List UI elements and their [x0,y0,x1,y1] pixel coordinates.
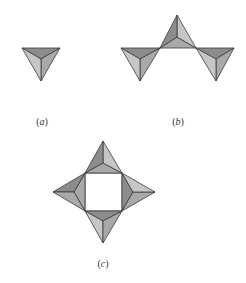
tetrahedron [160,15,196,48]
tetrahedron [85,211,122,243]
panel-c-ring-tetrahedra [53,141,155,243]
central-square-void [85,173,122,211]
tetrahedron [85,141,122,173]
tetrahedron [196,48,234,81]
panel-b-label: (b) [172,116,184,128]
tetrahedron [121,48,160,81]
tetrahedron [122,173,155,211]
panel-b-chain-tetrahedra [121,15,234,81]
tetrahedron [22,48,60,81]
panel-a-label: (a) [36,116,48,128]
tetrahedron [53,173,85,211]
figure-canvas: (a) (b) (c) [0,0,246,283]
panel-c-label: (c) [97,258,108,270]
panel-a-single-tetrahedron [22,48,60,81]
